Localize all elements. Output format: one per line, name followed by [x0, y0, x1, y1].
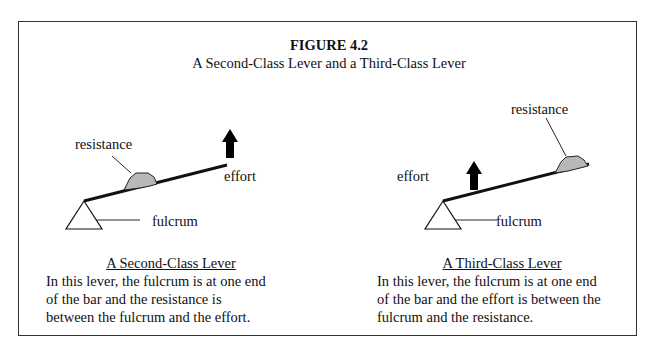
third-class-caption: A Third-Class Lever [377, 254, 627, 272]
resistance-rock-icon [555, 156, 588, 173]
resistance-leader-line [112, 156, 131, 173]
description-line: of the bar and the effort is between the [377, 290, 627, 308]
second-class-description: A Second-Class Lever In this lever, the … [46, 254, 296, 326]
third-class-description: A Third-Class Lever In this lever, the f… [377, 254, 627, 326]
third-class-lever-diagram: resistance effort fulcrum [397, 101, 589, 229]
description-line: fulcrum and the resistance. [377, 308, 627, 326]
effort-label: effort [224, 168, 256, 184]
fulcrum-label: fulcrum [152, 213, 199, 229]
description-line: In this lever, the fulcrum is at one end [377, 272, 627, 290]
effort-arrow-icon [466, 161, 482, 190]
fulcrum-triangle-icon [425, 201, 461, 229]
second-class-lever-diagram: resistance effort fulcrum [66, 129, 256, 229]
description-line: In this lever, the fulcrum is at one end [46, 272, 296, 290]
fulcrum-label: fulcrum [496, 213, 543, 229]
resistance-leader-line [546, 118, 566, 156]
description-line: of the bar and the resistance is [46, 290, 296, 308]
effort-label: effort [397, 168, 429, 184]
second-class-caption: A Second-Class Lever [46, 254, 296, 272]
fulcrum-triangle-icon [66, 201, 102, 229]
resistance-rock-icon [124, 173, 157, 190]
resistance-label: resistance [75, 136, 132, 152]
resistance-label: resistance [511, 101, 568, 117]
description-line: between the fulcrum and the effort. [46, 308, 296, 326]
effort-arrow-icon [222, 129, 238, 158]
